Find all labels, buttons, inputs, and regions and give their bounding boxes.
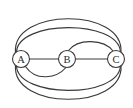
edge-a-c-below-inner — [17, 66, 121, 90]
node-a: A — [13, 51, 30, 68]
edge-a-c-above-outer — [15, 19, 121, 53]
node-b: B — [59, 51, 76, 68]
multigraph-canvas: A B C — [0, 0, 133, 108]
edge-b-c-arc-above — [69, 42, 114, 51]
edge-a-b-arc-below — [26, 67, 67, 77]
edge-a-c-above-inner — [17, 28, 121, 52]
node-b-label: B — [63, 54, 70, 65]
edge-a-c-below-outer — [15, 66, 121, 100]
node-c-label: C — [112, 54, 119, 65]
node-c: C — [108, 51, 125, 68]
graph-figure: A B C — [0, 0, 133, 108]
node-a-label: A — [17, 54, 25, 65]
